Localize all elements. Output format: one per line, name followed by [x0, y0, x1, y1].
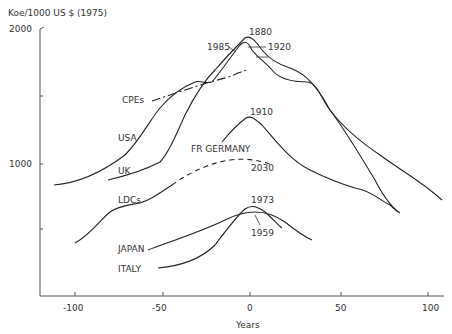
label-japan: JAPAN	[117, 244, 144, 254]
series-japan	[148, 212, 312, 250]
label-fr-germany: FR GERMANY	[191, 144, 251, 154]
y-axis-title: Koe/1000 US $ (1975)	[8, 8, 107, 18]
label-ldcs: LDCs	[118, 195, 141, 205]
annotation-1880: 1880	[249, 27, 272, 37]
x-tick-0: 0	[247, 303, 253, 313]
y-tick-2000: 2000	[9, 24, 32, 34]
label-uk: UK	[118, 166, 132, 176]
label-italy: ITALY	[118, 264, 141, 274]
y-tick-1000: 1000	[9, 159, 32, 169]
annotation-1910: 1910	[250, 107, 273, 117]
annotation-1920: 1920	[268, 42, 291, 52]
series-ldcs	[75, 185, 172, 243]
series-cpes	[152, 70, 247, 101]
label-cpes: CPEs	[122, 95, 144, 105]
x-tick-50: 50	[335, 303, 347, 313]
series-uk	[108, 37, 400, 213]
annotation-2030: 2030	[251, 163, 274, 173]
annotation-1985: 1985	[207, 42, 230, 52]
x-axis-title: Years	[235, 320, 260, 330]
series-usa	[54, 42, 442, 200]
energy-intensity-chart: Koe/1000 US $ (1975) 2000 1000 -100 -50 …	[0, 0, 452, 334]
annotation-1973: 1973	[251, 195, 274, 205]
annotation-1959: 1959	[251, 228, 274, 238]
x-tick-100: 100	[422, 303, 439, 313]
x-tick-m100: -100	[63, 303, 84, 313]
label-usa: USA	[118, 133, 137, 143]
series-fr-germany	[222, 117, 398, 212]
x-tick-m50: -50	[152, 303, 167, 313]
